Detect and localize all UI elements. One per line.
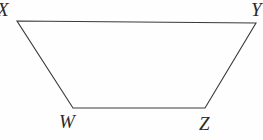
trapezoid-outline (17, 21, 256, 108)
vertex-label-x: X (0, 0, 9, 19)
trapezoid-shape (0, 0, 263, 140)
geometry-figure-canvas: X Y W Z (0, 0, 263, 140)
vertex-label-y: Y (251, 0, 262, 19)
vertex-label-w: W (59, 112, 75, 131)
vertex-label-z: Z (199, 114, 210, 133)
